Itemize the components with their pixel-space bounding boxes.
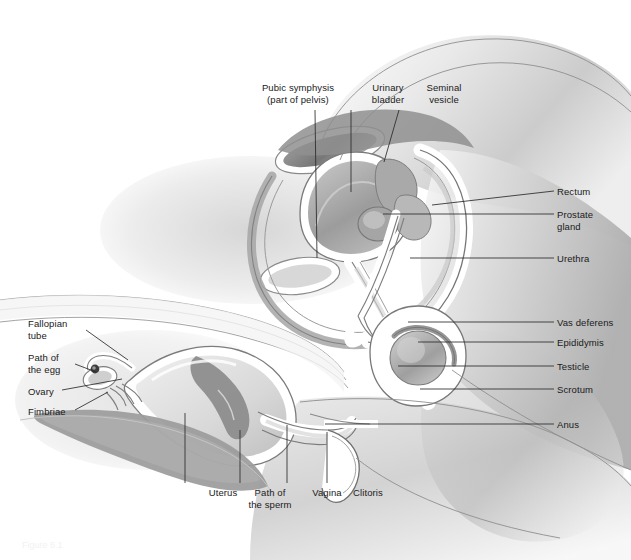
label-prostate-gland-line2: gland [557,221,593,233]
label-scrotum-line1: Scrotum [557,384,593,396]
label-testicle: Testicle [557,361,589,373]
label-urethra-line1: Urethra [557,253,589,265]
label-ovary: Ovary [28,386,54,398]
label-seminal-vesicle: Seminalvesicle [389,82,499,105]
label-testicle-line1: Testicle [557,361,589,373]
label-fallopian-tube-line2: tube [28,330,67,342]
label-vas-deferens-line1: Vas deferens [557,317,613,329]
label-clitoris-line1: Clitoris [313,487,423,499]
label-path-of-the-egg: Path ofthe egg [28,352,60,375]
label-epididymis: Epididymis [557,337,604,349]
label-fimbriae: Fimbriae [28,406,66,418]
label-seminal-vesicle-line1: Seminal [389,82,499,94]
label-epididymis-line1: Epididymis [557,337,604,349]
label-urethra: Urethra [557,253,589,265]
label-path-of-the-egg-line1: Path of [28,352,60,364]
label-fallopian-tube: Fallopiantube [28,318,67,341]
label-rectum: Rectum [557,186,590,198]
figure-caption: Figure 6.1 [22,540,63,550]
label-fallopian-tube-line1: Fallopian [28,318,67,330]
label-fimbriae-line1: Fimbriae [28,406,66,418]
figure-canvas: Pubic symphysis(part of pelvis)Urinarybl… [0,0,631,560]
label-rectum-line1: Rectum [557,186,590,198]
label-anus-line1: Anus [557,419,579,431]
label-seminal-vesicle-line2: vesicle [389,94,499,106]
label-path-of-the-egg-line2: the egg [28,364,60,376]
label-prostate-gland: Prostategland [557,209,593,232]
label-vas-deferens: Vas deferens [557,317,613,329]
label-path-of-the-sperm-line2: the sperm [215,499,325,511]
label-ovary-line1: Ovary [28,386,54,398]
scrotum-testicle [370,306,466,406]
label-anus: Anus [557,419,579,431]
label-scrotum: Scrotum [557,384,593,396]
label-clitoris: Clitoris [313,487,423,499]
label-prostate-gland-line1: Prostate [557,209,593,221]
